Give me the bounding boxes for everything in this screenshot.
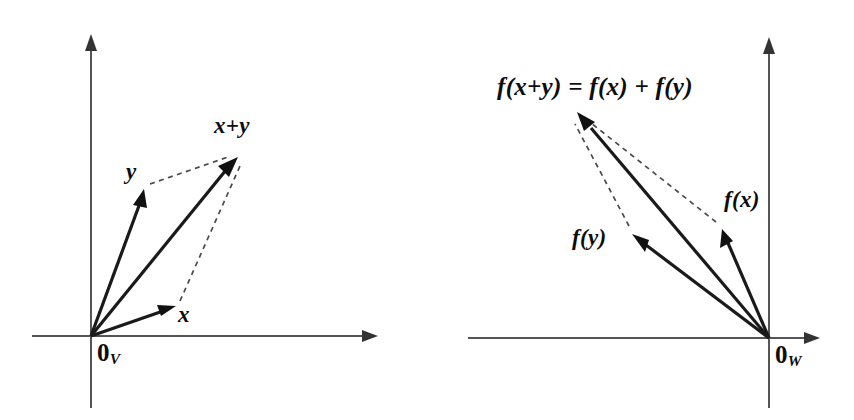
vector-f-of-x <box>720 229 769 338</box>
dashed-edge-fx-to-sum <box>586 119 716 222</box>
label-vector-f-of-y: f(y) <box>572 226 606 249</box>
label-origin-v: 0V <box>97 340 120 367</box>
label-vector-f-of-x: f(x) <box>724 188 760 211</box>
y-axis-arrowhead-right <box>763 37 775 54</box>
origin-w-zero: 0 <box>775 341 788 368</box>
y-axis-arrowhead-left <box>85 34 97 51</box>
vector-x-arrowhead <box>157 305 176 316</box>
dashed-edge-x-to-sum <box>180 166 240 301</box>
origin-w-subscript: W <box>788 352 802 369</box>
x-axis-arrowhead-left <box>362 330 378 342</box>
label-origin-w: 0W <box>775 342 802 369</box>
label-vector-y: y <box>126 160 137 183</box>
label-linearity-equation: f(x+y) = f(x) + f(y) <box>497 74 693 99</box>
linear-map-diagram: x y x+y 0V f(x) f(y) f(x+y) = f(x) + f(y… <box>0 0 854 420</box>
label-vector-x: x <box>178 303 190 326</box>
panel-domain-V <box>32 34 378 408</box>
x-axis-arrowhead-right <box>804 332 820 344</box>
vector-y <box>91 189 147 336</box>
label-vector-x-plus-y: x+y <box>214 114 250 137</box>
origin-v-subscript: V <box>110 350 120 367</box>
vector-f-of-y <box>632 234 769 338</box>
vector-f-of-x-arrowhead <box>720 229 733 248</box>
origin-v-zero: 0 <box>97 339 110 366</box>
vector-f-of-y-arrowhead <box>632 234 649 252</box>
vector-y-arrowhead <box>133 189 147 208</box>
